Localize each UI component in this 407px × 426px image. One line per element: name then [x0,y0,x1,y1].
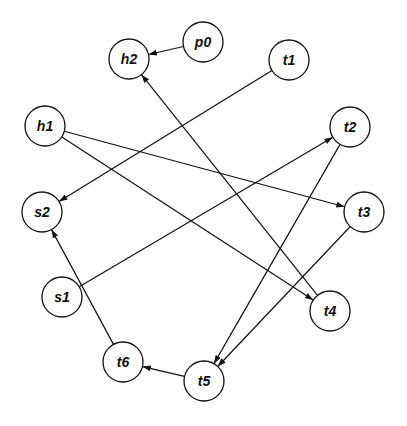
node-t6: t6 [103,342,143,382]
edge-h1-to-t3 [64,131,344,207]
node-label: t6 [117,354,130,370]
graph-canvas: p0h2t1h1t2s2t3s1t4t6t5 [0,0,407,426]
edge-t4-to-h2 [141,75,317,296]
edge-t1-to-s2 [59,70,272,201]
node-label: t4 [324,303,337,319]
node-p0: p0 [183,22,223,62]
node-label: h1 [37,118,54,134]
node-label: t3 [358,204,371,220]
node-s2: s2 [22,192,62,232]
edges-layer [52,46,351,376]
edge-s1-to-t2 [79,137,333,287]
edge-t5-to-t6 [142,367,184,377]
node-label: t2 [344,119,357,135]
nodes-layer: p0h2t1h1t2s2t3s1t4t6t5 [22,22,384,401]
node-label: t5 [198,373,211,389]
node-t5: t5 [184,361,224,401]
edge-h1-to-t4 [62,137,313,300]
node-label: s2 [34,204,50,220]
node-label: h2 [121,51,138,67]
node-h1: h1 [25,106,65,146]
node-t1: t1 [269,40,309,80]
node-t2: t2 [330,107,370,147]
node-label: s1 [54,289,70,305]
node-label: t1 [283,52,296,68]
node-label: p0 [194,34,212,50]
node-s1: s1 [42,277,82,317]
node-h2: h2 [109,39,149,79]
edge-p0-to-h2 [148,46,183,54]
node-t4: t4 [310,291,350,331]
node-t3: t3 [344,192,384,232]
